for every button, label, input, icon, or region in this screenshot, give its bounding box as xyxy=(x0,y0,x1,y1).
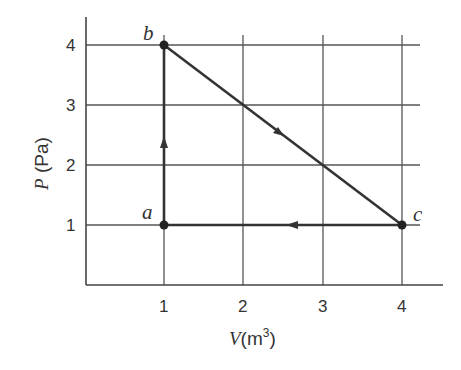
x-tick: 3 xyxy=(318,297,327,316)
x-tick: 1 xyxy=(159,297,168,316)
point-label-a: a xyxy=(142,200,153,224)
point-label-b: b xyxy=(143,21,154,45)
arrow-up-icon xyxy=(160,136,168,148)
y-tick: 4 xyxy=(66,36,75,55)
direction-arrows xyxy=(160,127,298,229)
y-tick: 2 xyxy=(66,156,75,175)
y-tick: 1 xyxy=(66,216,75,235)
x-tick: 2 xyxy=(238,297,247,316)
arrow-left-icon xyxy=(286,221,298,229)
x-axis-label: V(m3) xyxy=(229,326,276,349)
point-label-c: c xyxy=(413,202,423,226)
grid xyxy=(86,35,420,285)
y-axis-label: P (Pa) xyxy=(31,137,52,191)
pv-diagram: a b c 4 3 2 1 1 2 3 4 V(m3) P (Pa) xyxy=(0,0,461,370)
axes xyxy=(86,17,443,285)
point-c xyxy=(398,221,407,230)
point-b xyxy=(160,41,169,50)
point-a xyxy=(160,221,169,230)
x-tick: 4 xyxy=(397,297,406,316)
y-tick: 3 xyxy=(66,96,75,115)
